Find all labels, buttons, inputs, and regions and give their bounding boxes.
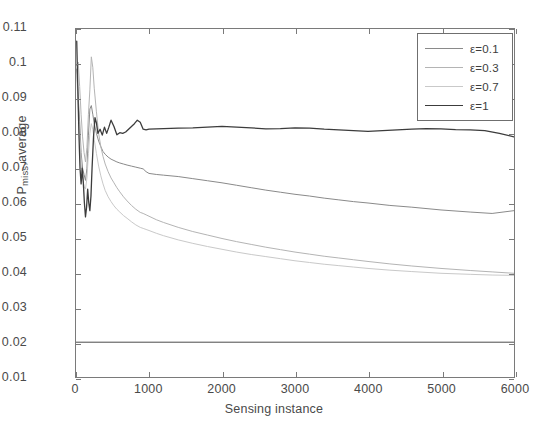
y-axis-title-main: P [15,186,29,195]
y-axis-title-tail: ,average [15,115,29,165]
y-tick-label: 0.01 [2,370,27,384]
x-tick-label: 4000 [338,382,398,396]
x-tick-mark [76,372,77,377]
y-tick-label: 0.03 [2,300,27,314]
y-tick-mark-right [509,344,514,345]
x-tick-label: 1000 [118,382,178,396]
legend-line-swatch [425,86,463,87]
y-axis-title-subscript: miss [19,166,30,186]
y-tick-mark-right [509,204,514,205]
legend-label: ε=1 [470,100,489,112]
x-tick-mark [223,372,224,377]
x-tick-label: 5000 [412,382,472,396]
y-tick-label: 0.04 [2,265,27,279]
legend-entry: ε=0.3 [422,58,508,77]
y-tick-mark-right [509,169,514,170]
x-tick-mark [369,372,370,377]
y-tick-label: 0.1 [9,55,27,69]
legend-entry: ε=1 [422,96,508,115]
y-tick-mark-right [509,29,514,30]
legend-label: ε=0.3 [470,62,499,74]
legend-box: ε=0.1ε=0.3ε=0.7ε=1 [417,33,513,121]
y-tick-mark [76,309,81,310]
x-tick-mark-top [369,29,370,34]
y-tick-mark-right [509,309,514,310]
y-tick-mark [76,344,81,345]
legend-line-swatch [425,105,463,106]
legend-line-swatch [425,67,463,68]
x-tick-mark-top [516,29,517,34]
figure-canvas: 0.010.020.030.040.050.060.070.080.090.10… [0,0,548,432]
y-tick-label: 0.11 [3,20,27,34]
x-tick-mark-top [223,29,224,34]
y-tick-mark [76,64,81,65]
legend-entry: ε=0.1 [422,39,508,58]
y-tick-mark-right [509,134,514,135]
y-tick-mark [76,274,81,275]
y-tick-mark [76,169,81,170]
y-tick-mark-right [509,379,514,380]
y-tick-mark-right [509,239,514,240]
legend-label: ε=0.7 [470,81,499,93]
x-tick-label: 6000 [485,382,545,396]
legend-label: ε=0.1 [470,43,499,55]
x-tick-mark [296,372,297,377]
x-tick-mark [516,372,517,377]
y-tick-mark [76,379,81,380]
legend-line-swatch [425,48,463,49]
legend-entry: ε=0.7 [422,77,508,96]
x-tick-label: 0 [45,382,105,396]
y-tick-label: 0.02 [2,335,27,349]
x-axis-title: Sensing instance [0,402,548,416]
y-tick-mark [76,134,81,135]
y-tick-mark-right [509,274,514,275]
x-tick-mark [443,372,444,377]
y-tick-mark [76,99,81,100]
x-tick-label: 2000 [192,382,252,396]
y-axis-title: Pmiss,average [15,75,29,235]
x-tick-label: 3000 [265,382,325,396]
x-tick-mark-top [296,29,297,34]
x-tick-mark-top [76,29,77,34]
y-tick-mark [76,239,81,240]
x-tick-mark-top [149,29,150,34]
y-tick-mark [76,204,81,205]
x-tick-mark [149,372,150,377]
